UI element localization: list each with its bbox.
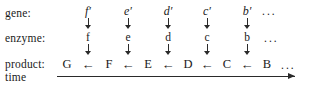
enzyme-to-product-arrow-4 [203,44,211,55]
row-label-product: product: [5,59,45,71]
pathway-diagram: gene: enzyme: product: time f′ f e′ e d′… [0,0,313,88]
enzyme-to-product-arrow-1 [84,44,92,55]
enzyme-to-product-arrow-2 [124,44,132,55]
gene-symbol-2: e′ [124,5,132,17]
enzyme-symbol-2: e [125,32,130,44]
gene-to-enzyme-arrow-3 [164,18,172,29]
product-symbol-3: D [183,58,192,71]
enzyme-symbol-3: d [165,32,171,44]
product-arrow-4: ← [201,58,214,71]
enzyme-to-product-arrow-5 [243,44,251,55]
time-axis-shaft [57,76,295,77]
time-axis-arrowhead [288,73,295,79]
gene-symbol-3: d′ [164,5,173,17]
row-label-enzyme: enzyme: [5,33,45,45]
enzyme-symbol-4: c [204,32,209,44]
enzyme-row-ellipsis: ... [264,33,279,45]
enzyme-symbol-1: f [86,32,90,44]
gene-to-enzyme-arrow-4 [203,18,211,29]
product-symbol-1: F [106,58,113,71]
gene-row-ellipsis: ... [262,6,277,18]
enzyme-symbol-5: b [244,32,250,44]
product-row-ellipsis: ... [281,60,296,72]
product-symbol-terminal: G [62,58,71,71]
enzyme-to-product-arrow-3 [164,44,172,55]
gene-to-enzyme-arrow-2 [124,18,132,29]
time-axis-arrow [57,72,295,81]
product-arrow-1: ← [82,58,95,71]
gene-to-enzyme-arrow-1 [84,18,92,29]
product-arrow-5: ← [241,58,254,71]
product-symbol-4: C [223,58,231,71]
gene-to-enzyme-arrow-5 [243,18,251,29]
gene-symbol-4: c′ [203,5,211,17]
product-symbol-2: E [144,58,152,71]
gene-symbol-1: f′ [85,5,91,17]
product-symbol-5: B [263,58,271,71]
gene-symbol-5: b′ [243,5,252,17]
product-arrow-3: ← [162,58,175,71]
row-label-gene: gene: [5,8,31,20]
product-arrow-2: ← [122,58,135,71]
row-label-time: time [5,72,26,84]
